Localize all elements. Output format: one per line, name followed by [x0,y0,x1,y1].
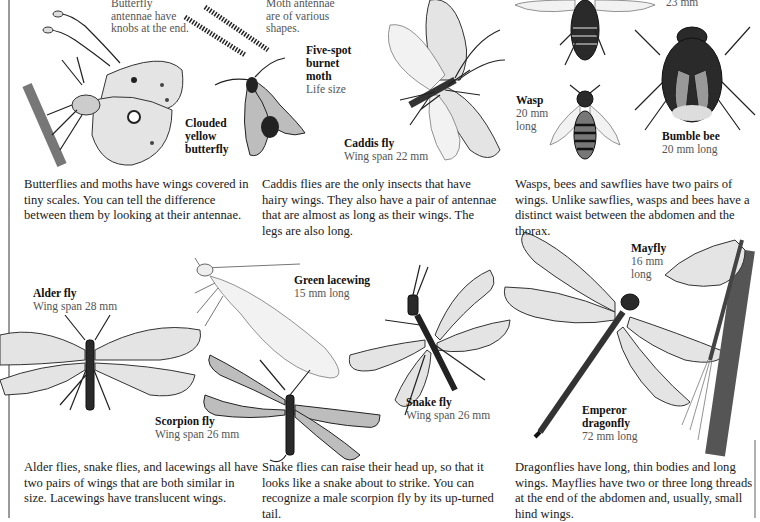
caddis-fly-label: Caddis fly Wing span 22 mm [344,137,428,163]
clouded-yellow-line3: butterfly [185,143,228,156]
scorpion-fly-size: Wing span 26 mm [155,428,239,441]
clouded-yellow-butterfly-icon [22,55,187,170]
caddis-fly-name: Caddis fly [344,137,428,150]
bumble-bee-icon [630,15,760,130]
snake-fly-size: Wing span 26 mm [406,409,490,422]
burnet-moth-size: Life size [306,83,351,96]
paragraph-alder-snake-lace: Alder flies, snake flies, and lacewings … [24,460,259,507]
alder-fly-size: Wing span 28 mm [33,300,117,313]
emperor-dragonfly-size: 72 mm long [582,430,638,443]
wasp-icon [545,85,625,165]
paragraph-caddis-flies: Caddis flies are the only insects that h… [262,177,497,239]
alder-fly-icon [0,315,205,415]
mayfly-icon [660,230,760,460]
mayfly-label: Mayfly 16 mm long [631,242,666,281]
green-lacewing-size: 15 mm long [294,287,370,300]
emperor-dragonfly-label: Emperor dragonfly 72 mm long [582,404,638,443]
green-lacewing-label: Green lacewing 15 mm long [294,274,370,300]
emperor-dragonfly-line2: dragonfly [582,417,638,430]
wasp-size-1: 20 mm [516,107,548,120]
paragraph-butterflies-moths: Butterflies and moths have wings covered… [24,177,259,224]
bumble-bee-label: Bumble bee 20 mm long [662,130,720,156]
bumble-bee-name: Bumble bee [662,130,720,143]
mayfly-size-1: 16 mm [631,255,666,268]
paragraph-dragonflies-mayflies: Dragonflies have long, thin bodies and l… [515,460,755,522]
paragraph-wasps-bees: Wasps, bees and sawflies have two pairs … [515,177,750,239]
butterfly-antennae-note: Butterfly antennae have knobs at the end… [111,0,196,35]
green-lacewing-name: Green lacewing [294,274,370,287]
burnet-moth-label: Five-spot burnet moth Life size [306,44,351,96]
emperor-dragonfly-line1: Emperor [582,404,638,417]
clouded-yellow-line2: yellow [185,130,228,143]
mayfly-size-2: long [631,268,666,281]
caddis-fly-size: Wing span 22 mm [344,150,428,163]
snake-fly-label: Snake fly Wing span 26 mm [406,396,490,422]
page-margin-rule [8,0,10,518]
snake-fly-name: Snake fly [406,396,490,409]
burnet-moth-line2: burnet [306,57,351,70]
wasp-size-2: long [516,120,548,133]
sawfly-size: 23 mm [666,0,698,9]
alder-fly-name: Alder fly [33,287,117,300]
clouded-yellow-label: Clouded yellow butterfly [185,117,228,156]
moth-antennae-note: Moth antennae are of various shapes. [266,0,346,35]
sawfly-label: 23 mm [666,0,698,9]
burnet-moth-line1: Five-spot [306,44,351,57]
clouded-yellow-line1: Clouded [185,117,228,130]
mayfly-name: Mayfly [631,242,666,255]
wasp-label: Wasp 20 mm long [516,94,548,133]
paragraph-snake-scorpion: Snake flies can raise their head up, so … [262,460,507,522]
bumble-bee-size: 20 mm long [662,143,720,156]
scorpion-fly-label: Scorpion fly Wing span 26 mm [155,415,239,441]
alder-fly-label: Alder fly Wing span 28 mm [33,287,117,313]
burnet-moth-line3: moth [306,70,351,83]
scorpion-fly-name: Scorpion fly [155,415,239,428]
wasp-name: Wasp [516,94,548,107]
